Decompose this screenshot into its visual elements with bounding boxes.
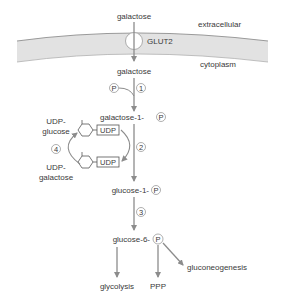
galactose-metabolism-diagram: GLUT2 extracellular cytoplasm galactose … [0,0,284,302]
glucose-1-phosphate-label: glucose-1- [112,186,150,195]
udp-box-bottom-label: UDP [100,158,116,167]
cytoplasm-label: cytoplasm [200,60,236,69]
phosphate-circle-glc1p: P [152,186,161,195]
step-4-badge: 4 [52,145,61,154]
galactose-extracellular-label: galactose [117,12,152,21]
step-3-badge: 3 [137,208,146,217]
glucose-6-phosphate-label: glucose-6- [113,235,151,244]
svg-text:1: 1 [139,84,143,93]
gluconeogenesis-arrow [163,243,183,265]
udp-galactose-label-1: UDP- [46,163,66,172]
extracellular-label: extracellular [198,20,241,29]
udp-galactose-label-2: galactose [39,173,74,182]
ppp-label: PPP [150,282,166,291]
svg-text:3: 3 [139,208,143,217]
galactose-cytoplasm-label: galactose [117,67,152,76]
step-2-badge: 2 [137,143,146,152]
phosphate-circle-gal1p: P [157,113,166,122]
svg-text:P: P [155,235,160,244]
svg-text:2: 2 [139,143,143,152]
udp-glucose-label-1: UDP- [46,117,66,126]
udp-glucose-label-2: glucose [42,127,70,136]
step-1-badge: 1 [137,84,146,93]
gluconeogenesis-label: gluconeogenesis [187,263,247,272]
svg-text:4: 4 [54,145,58,154]
svg-text:P: P [158,113,163,122]
galactose-1-phosphate-label: galactose-1- [100,113,144,122]
step4-epimerase-arrow [68,133,80,164]
udp-glucose-hexagon-icon [78,120,97,136]
glycolysis-label: glycolysis [100,282,134,291]
phosphate-circle-glc6p: P [153,234,163,244]
svg-text:P: P [153,186,158,195]
phosphate-input-step1: P [110,84,135,97]
udp-box-top-label: UDP [100,126,116,135]
glut2-label: GLUT2 [147,37,173,46]
udp-galactose-hexagon-icon [78,152,97,168]
udp-transfer-arrow [121,130,130,161]
svg-text:P: P [111,84,116,93]
cell-membrane [17,33,268,62]
